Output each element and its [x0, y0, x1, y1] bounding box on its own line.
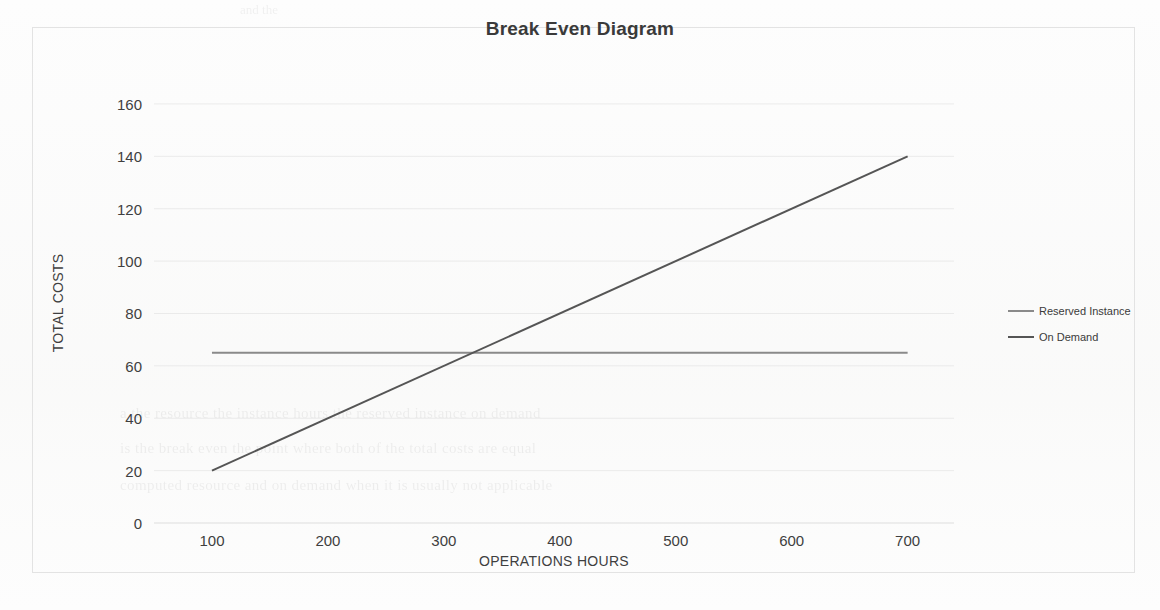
x-tick-label: 300: [431, 532, 456, 549]
chart-title: Break Even Diagram: [0, 18, 1160, 40]
x-tick-label: 200: [315, 532, 340, 549]
chart-legend: Reserved InstanceOn Demand: [1008, 305, 1131, 343]
x-tick-label: 600: [779, 532, 804, 549]
y-tick-label: 0: [134, 515, 142, 532]
plot-area: 020406080100120140160 100200300400500600…: [154, 83, 954, 523]
x-tick-label: 500: [663, 532, 688, 549]
legend-swatch-line-icon: [1008, 336, 1034, 338]
y-tick-label: 80: [125, 305, 142, 322]
y-tick-label: 60: [125, 357, 142, 374]
legend-label: On Demand: [1039, 331, 1098, 343]
y-tick-label: 160: [117, 95, 142, 112]
chart-canvas: [154, 83, 954, 523]
x-tick-label: 700: [895, 532, 920, 549]
x-axis-title: OPERATIONS HOURS: [154, 553, 954, 569]
y-axis-title: TOTAL COSTS: [50, 254, 66, 353]
y-tick-label: 120: [117, 200, 142, 217]
legend-item[interactable]: Reserved Instance: [1008, 305, 1131, 317]
legend-label: Reserved Instance: [1039, 305, 1131, 317]
y-tick-label: 100: [117, 253, 142, 270]
ghost-text-top: and the: [240, 2, 1100, 18]
y-tick-label: 20: [125, 462, 142, 479]
legend-swatch-line-icon: [1008, 310, 1034, 312]
x-tick-label: 400: [547, 532, 572, 549]
y-tick-label: 140: [117, 148, 142, 165]
x-tick-label: 100: [199, 532, 224, 549]
chart-page: and the a the resource the instance hour…: [0, 0, 1160, 610]
legend-item[interactable]: On Demand: [1008, 331, 1131, 343]
y-tick-label: 40: [125, 410, 142, 427]
